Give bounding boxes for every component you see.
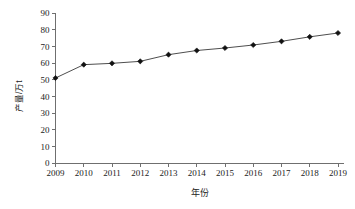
y-tick-label: 80	[41, 25, 51, 35]
y-tick-label: 10	[41, 142, 51, 152]
y-tick-label: 20	[41, 125, 51, 135]
x-tick-label: 2011	[103, 168, 121, 178]
data-point-marker	[279, 39, 284, 44]
x-tick-label: 2016	[244, 168, 263, 178]
data-point-marker	[335, 30, 340, 35]
data-point-marker	[166, 52, 171, 57]
x-tick-label: 2014	[188, 168, 207, 178]
x-tick-label: 2013	[160, 168, 179, 178]
x-tick-label: 2018	[301, 168, 320, 178]
y-tick-label: 70	[41, 42, 51, 52]
data-point-markers	[53, 30, 341, 80]
data-point-marker	[81, 62, 86, 67]
y-axis-ticks: 0102030405060708090	[41, 8, 56, 168]
line-chart: 0102030405060708090 20092010201120122013…	[0, 0, 355, 209]
data-point-marker	[251, 42, 256, 47]
y-tick-label: 50	[41, 75, 51, 85]
x-tick-label: 2019	[329, 168, 348, 178]
y-tick-label: 90	[41, 8, 51, 18]
data-point-marker	[307, 34, 312, 39]
chart-container: 0102030405060708090 20092010201120122013…	[0, 0, 355, 209]
data-point-marker	[109, 61, 114, 66]
data-point-marker	[222, 45, 227, 50]
y-tick-label: 30	[41, 108, 51, 118]
x-axis-ticks: 2009201020112012201320142015201620172018…	[47, 163, 348, 178]
y-tick-label: 60	[41, 58, 51, 68]
x-tick-label: 2009	[47, 168, 66, 178]
y-tick-label: 40	[41, 92, 51, 102]
data-series-group	[53, 30, 341, 80]
y-axis-title: 产量/万t	[14, 80, 24, 112]
x-tick-label: 2015	[216, 168, 235, 178]
series-line-path	[56, 33, 339, 78]
x-tick-label: 2017	[273, 168, 292, 178]
x-axis-title: 年份	[191, 187, 209, 198]
axes-group	[56, 13, 345, 164]
data-point-marker	[138, 59, 143, 64]
x-tick-label: 2012	[131, 168, 149, 178]
x-tick-label: 2010	[75, 168, 94, 178]
data-point-marker	[194, 48, 199, 53]
y-tick-label: 0	[45, 158, 50, 168]
